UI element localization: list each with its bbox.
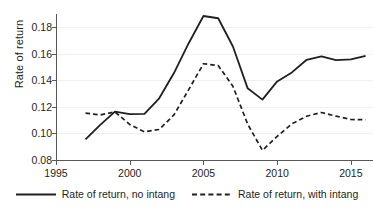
x-tick-label: 2015 — [339, 167, 362, 179]
chart-legend: Rate of return, no intang Rate of return… — [0, 188, 374, 200]
legend-label-no-intang: Rate of return, no intang — [62, 188, 175, 200]
plot-area — [56, 14, 373, 160]
legend-label-with-intang: Rate of return, with intang — [238, 188, 358, 200]
x-tick-label: 2005 — [192, 167, 215, 179]
y-tick-label: 0.08 — [12, 154, 52, 166]
x-axis-line — [56, 160, 373, 161]
y-tick-label: 0.12 — [12, 101, 52, 113]
y-tick-label: 0.18 — [12, 21, 52, 33]
x-tick — [351, 161, 352, 165]
x-tick — [130, 161, 131, 165]
y-tick-label: 0.16 — [12, 48, 52, 60]
legend-item-no-intang: Rate of return, no intang — [16, 188, 175, 200]
y-tick-label: 0.14 — [12, 74, 52, 86]
y-tick-label: 0.10 — [12, 127, 52, 139]
legend-swatch-dashed-line — [192, 190, 232, 199]
legend-item-with-intang: Rate of return, with intang — [192, 188, 358, 200]
x-tick — [56, 161, 57, 165]
series-line-with-intang — [85, 64, 365, 151]
series-line-no-intang — [85, 16, 365, 139]
legend-swatch-solid-line — [16, 190, 56, 199]
x-tick — [203, 161, 204, 165]
x-tick — [277, 161, 278, 165]
x-tick-label: 2010 — [265, 167, 288, 179]
series-lines — [56, 14, 373, 160]
rate-of-return-line-chart: Rate of return 0.080.100.120.140.160.18 … — [0, 0, 374, 215]
x-tick-label: 2000 — [118, 167, 141, 179]
x-tick-label: 1995 — [44, 167, 67, 179]
